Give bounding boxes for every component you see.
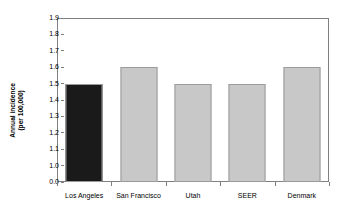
bar-slot: [275, 18, 329, 182]
bar-utah[interactable]: [174, 84, 211, 182]
bar-slot: [57, 18, 111, 182]
bar-slot: [220, 18, 274, 182]
x-axis-label-los-angeles: Los Angeles: [57, 191, 111, 201]
x-axis-tick-mark: [220, 182, 221, 186]
bar-seer[interactable]: [229, 84, 266, 182]
y-axis-title: Annual incidence (per 100,000): [0, 0, 34, 220]
x-axis-tick-mark: [111, 182, 112, 186]
x-axis-label-denmark: Denmark: [275, 191, 329, 201]
x-axis-label-utah: Utah: [166, 191, 220, 201]
x-axis-labels: Los AngelesSan FranciscoUtahSEERDenmark: [57, 191, 329, 211]
bars-container: [57, 18, 329, 182]
y-axis-title-line1: Annual incidence: [9, 83, 17, 138]
bar-slot: [166, 18, 220, 182]
bar-denmark[interactable]: [283, 67, 320, 182]
x-axis-tick-mark: [166, 182, 167, 186]
x-axis-label-san-francisco: San Francisco: [111, 191, 165, 201]
y-axis-title-line2: (per 100,000): [17, 83, 25, 138]
x-axis-label-seer: SEER: [220, 191, 274, 201]
bar-los-angeles[interactable]: [66, 84, 103, 182]
x-axis-tick-mark: [275, 182, 276, 186]
x-axis-tick-mark: [57, 182, 58, 186]
x-axis-tick-mark: [329, 182, 330, 186]
bar-chart: Annual incidence (per 100,000) 1.91.81.7…: [0, 0, 347, 220]
bar-san-francisco[interactable]: [120, 67, 157, 182]
bar-slot: [111, 18, 165, 182]
